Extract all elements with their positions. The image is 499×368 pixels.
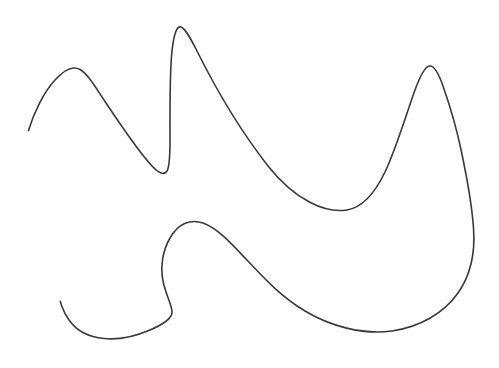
canvas-background [0, 0, 499, 368]
sketch-canvas [0, 0, 499, 368]
freeform-curve-svg [0, 0, 499, 368]
